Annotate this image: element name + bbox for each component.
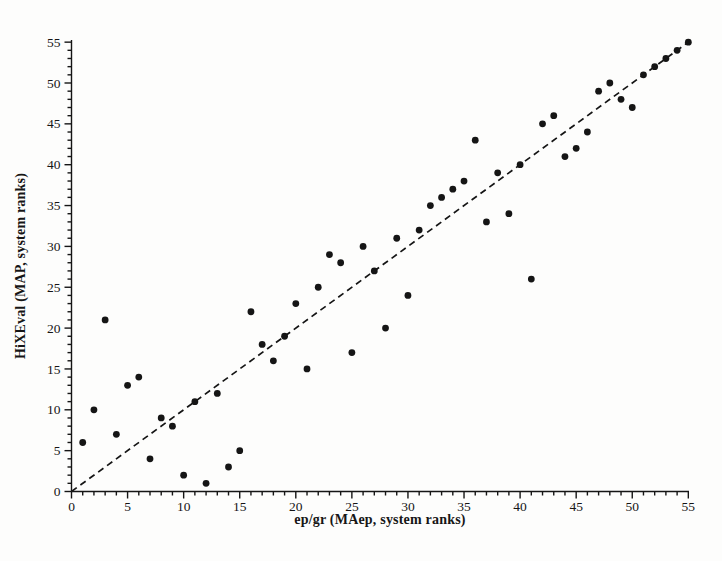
data-point: [595, 88, 602, 95]
y-tick-label: 55: [47, 35, 61, 50]
data-point: [505, 210, 512, 217]
data-point: [674, 47, 681, 54]
tick-labels: 0510152025303540455055051015202530354045…: [47, 35, 695, 514]
data-point: [651, 63, 658, 70]
x-tick-label: 15: [233, 499, 247, 514]
y-tick-label: 50: [47, 76, 61, 91]
data-point: [550, 112, 557, 119]
y-tick-label: 35: [47, 198, 61, 213]
data-point: [371, 268, 378, 275]
data-point: [573, 145, 580, 152]
data-point: [304, 366, 311, 373]
identity-line: [72, 42, 689, 491]
data-point: [416, 227, 423, 234]
y-tick-label: 0: [54, 484, 61, 499]
x-tick-label: 10: [177, 499, 191, 514]
data-point: [427, 202, 434, 209]
data-point: [158, 415, 165, 422]
x-tick-label: 45: [569, 499, 583, 514]
data-point: [124, 382, 131, 389]
y-tick-label: 20: [47, 321, 61, 336]
x-tick-label: 0: [68, 499, 75, 514]
data-point: [326, 251, 333, 258]
data-point: [236, 447, 243, 454]
data-point: [113, 431, 120, 438]
data-point: [483, 218, 490, 225]
data-point: [214, 390, 221, 397]
y-tick-label: 10: [47, 402, 61, 417]
data-point: [259, 341, 266, 348]
data-point: [562, 153, 569, 160]
data-point: [102, 317, 109, 324]
data-point: [270, 357, 277, 364]
data-point: [517, 161, 524, 168]
data-point: [281, 333, 288, 340]
data-point: [91, 406, 98, 413]
x-axis-title: ep/gr (MAep, system ranks): [294, 512, 465, 528]
y-tick-label: 25: [47, 280, 61, 295]
data-point: [169, 423, 176, 430]
data-point: [203, 480, 210, 487]
data-point: [225, 464, 232, 471]
x-tick-label: 50: [626, 499, 640, 514]
y-tick-label: 30: [47, 239, 61, 254]
y-axis-title: HiXEval (MAP, system ranks): [13, 173, 29, 359]
data-point: [438, 194, 445, 201]
data-point: [79, 439, 86, 446]
x-tick-label: 55: [682, 499, 696, 514]
data-point: [360, 243, 367, 250]
data-point: [629, 104, 636, 111]
data-point: [147, 455, 154, 462]
data-point: [292, 300, 299, 307]
x-tick-label: 40: [513, 499, 527, 514]
data-point: [135, 374, 142, 381]
scatter-figure: 0510152025303540455055051015202530354045…: [0, 0, 722, 561]
data-point: [393, 235, 400, 242]
data-point: [472, 137, 479, 144]
data-point: [405, 292, 412, 299]
data-point: [382, 325, 389, 332]
data-point: [662, 55, 669, 62]
x-tick-label: 5: [124, 499, 131, 514]
y-tick-label: 45: [47, 116, 61, 131]
data-point: [449, 186, 456, 193]
data-point: [337, 259, 344, 266]
data-point: [618, 96, 625, 103]
data-point: [539, 120, 546, 127]
data-point: [315, 284, 322, 291]
y-tick-label: 5: [54, 443, 61, 458]
y-tick-label: 15: [47, 362, 61, 377]
data-point: [248, 308, 255, 315]
data-point: [528, 276, 535, 283]
scatter-plot: 0510152025303540455055051015202530354045…: [0, 0, 722, 561]
data-point: [191, 398, 198, 405]
data-point: [584, 129, 591, 136]
data-point: [461, 178, 468, 185]
data-point: [606, 80, 613, 87]
data-point: [685, 39, 692, 46]
data-point: [640, 71, 647, 78]
data-point: [348, 349, 355, 356]
data-point: [180, 472, 187, 479]
y-tick-label: 40: [47, 157, 61, 172]
data-point: [494, 169, 501, 176]
